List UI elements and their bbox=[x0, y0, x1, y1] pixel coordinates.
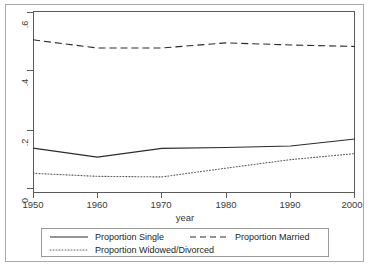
x-tick-label-1990: 1990 bbox=[270, 199, 310, 210]
x-tick-mark-1980 bbox=[226, 193, 227, 198]
y-tick-label-0-6: .6 bbox=[21, 13, 30, 37]
y-tick-label-0-4: .4 bbox=[21, 71, 30, 95]
legend-row-1: Proportion Single Proportion Married bbox=[42, 230, 330, 244]
legend-swatch-dashed-icon bbox=[189, 232, 229, 242]
x-tick-mark-1990 bbox=[290, 193, 291, 198]
legend-swatch-solid-icon bbox=[49, 232, 89, 242]
x-tick-label-1950: 1950 bbox=[13, 199, 53, 210]
x-axis-title: year bbox=[0, 212, 370, 223]
x-tick-label-1970: 1970 bbox=[141, 199, 181, 210]
series-line-proportion-single bbox=[33, 139, 355, 157]
legend-swatch-dotted-icon bbox=[49, 245, 89, 255]
legend-label-proportion-widowed-divorced: Proportion Widowed/Divorced bbox=[95, 245, 214, 255]
legend-label-proportion-married: Proportion Married bbox=[235, 232, 310, 242]
legend-item-proportion-single[interactable]: Proportion Single bbox=[49, 230, 164, 244]
legend-row-2: Proportion Widowed/Divorced bbox=[42, 243, 330, 257]
x-tick-label-1960: 1960 bbox=[77, 199, 117, 210]
legend-item-proportion-widowed-divorced[interactable]: Proportion Widowed/Divorced bbox=[49, 243, 214, 257]
x-tick-mark-1970 bbox=[161, 193, 162, 198]
x-tick-label-2000: 2000 bbox=[332, 199, 370, 210]
legend-label-proportion-single: Proportion Single bbox=[95, 232, 164, 242]
chart-page: .6 .4 .2 0 1950 1960 1970 1980 1990 2000… bbox=[0, 0, 370, 266]
x-tick-mark-2000 bbox=[354, 193, 355, 198]
x-tick-mark-1950 bbox=[33, 193, 34, 198]
series-line-proportion-widowed-divorced bbox=[33, 154, 355, 177]
chart-legend: Proportion Single Proportion Married Pro bbox=[41, 228, 329, 257]
chart-plot bbox=[33, 11, 355, 193]
legend-item-proportion-married[interactable]: Proportion Married bbox=[189, 230, 310, 244]
x-tick-mark-1960 bbox=[97, 193, 98, 198]
y-tick-label-0-2: .2 bbox=[21, 131, 30, 155]
x-tick-label-1980: 1980 bbox=[206, 199, 246, 210]
series-line-proportion-married bbox=[33, 40, 355, 48]
